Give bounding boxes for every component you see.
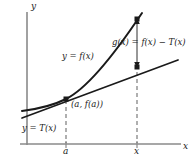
function-curve-label: y = f(x) — [62, 52, 94, 61]
x-axis-label: x — [183, 142, 188, 151]
curve-at-x-marker — [135, 17, 140, 22]
line-at-x-marker — [135, 65, 140, 70]
tick-label-a: a — [63, 147, 68, 156]
tangent-line-label: y = T(x) — [22, 124, 56, 133]
remainder-function-label: g(x) = f(x) − T(x) — [112, 38, 186, 47]
tick-label-x: x — [134, 147, 139, 156]
tangent-line-remainder-figure: y x a x y = f(x) y = T(x) g(x) = f(x) − … — [0, 0, 195, 162]
tangent-point-label: (a, f(a)) — [71, 100, 103, 109]
tangent-point-marker — [64, 97, 69, 102]
y-axis-label: y — [31, 2, 36, 11]
figure-canvas — [0, 0, 195, 162]
